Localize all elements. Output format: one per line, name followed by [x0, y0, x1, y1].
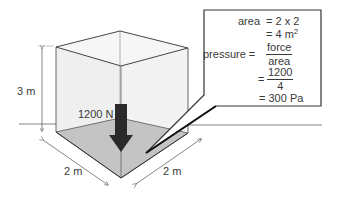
area-formula: = 2 x 2 [266, 16, 299, 27]
substitution-equals: = [258, 74, 264, 85]
pressure-diagram: 3 m 1200 N 2 m 2 m area = 2 x 2 = 4 m2 p… [0, 0, 337, 199]
area-label: area [238, 16, 260, 27]
substitution-numerator: 1200 [267, 67, 293, 80]
calculation-callout: area = 2 x 2 = 4 m2 pressure = force are… [205, 11, 320, 106]
force-label: 1200 N [78, 109, 113, 120]
pressure-fraction: force area [266, 42, 292, 67]
height-label: 3 m [17, 86, 35, 97]
width-left-label: 2 m [64, 166, 82, 177]
area-result: = 4 m2 [266, 29, 298, 40]
area-result-exponent: 2 [294, 27, 298, 36]
pressure-numerator: force [266, 42, 292, 55]
area-result-value: = 4 m [266, 28, 294, 40]
width-right-label: 2 m [163, 166, 181, 177]
pressure-label: pressure = [203, 49, 255, 60]
substitution-denominator: 4 [267, 80, 293, 92]
substitution-fraction: 1200 4 [267, 67, 293, 92]
pressure-result: = 300 Pa [259, 93, 303, 104]
